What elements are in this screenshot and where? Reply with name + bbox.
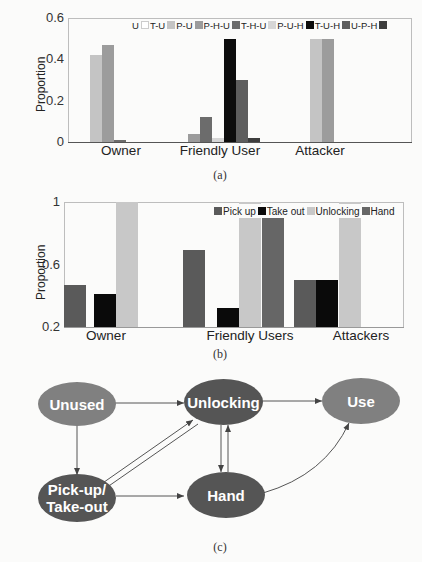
edge-hand-use: [263, 423, 349, 493]
node-use: Use: [322, 378, 400, 424]
node-hand-label: Hand: [207, 487, 245, 504]
diagram-caption: (c): [200, 540, 240, 555]
state-diagram: Unused Unlocking Use Pick-up/ Take-out H…: [0, 0, 422, 562]
node-unused: Unused: [38, 382, 116, 426]
node-pickup-label: Pick-up/ Take-out: [42, 481, 112, 515]
node-unused-label: Unused: [49, 396, 104, 413]
node-use-label: Use: [347, 393, 375, 410]
node-hand: Hand: [187, 472, 265, 518]
node-unlocking: Unlocking: [184, 379, 263, 425]
node-unlocking-label: Unlocking: [187, 394, 260, 411]
edge-pickup-unlocking: [97, 420, 193, 487]
edge-unlocking-pickup: [103, 424, 198, 490]
node-pickup-takeout: Pick-up/ Take-out: [38, 474, 116, 522]
